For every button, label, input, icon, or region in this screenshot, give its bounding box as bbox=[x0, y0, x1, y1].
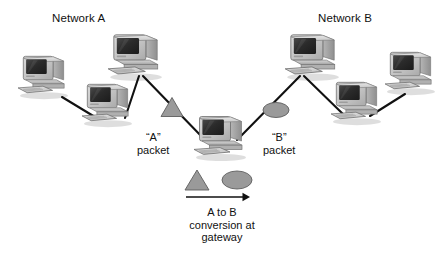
b-packet-label: “B” packet bbox=[263, 131, 295, 156]
b-packet-label-line1: “B” bbox=[263, 131, 295, 144]
computer-icon-gw bbox=[194, 117, 246, 162]
a-packet-label-line2: packet bbox=[137, 144, 169, 157]
computer-icon-b1 bbox=[285, 35, 339, 81]
packet-markers bbox=[161, 98, 289, 118]
conversion-caption-line3: gateway bbox=[142, 231, 302, 244]
a-packet-marker bbox=[161, 98, 183, 117]
b-packet-label-line2: packet bbox=[263, 144, 295, 157]
a-packet-label: “A” packet bbox=[137, 131, 169, 156]
legend-ellipse-icon bbox=[222, 171, 252, 189]
conversion-legend bbox=[185, 170, 252, 201]
computer-icon-a2 bbox=[82, 84, 132, 127]
conversion-caption-line1: A to B bbox=[142, 206, 302, 219]
conversion-caption-line2: conversion at bbox=[142, 219, 302, 232]
a-packet-label-line1: “A” bbox=[137, 131, 169, 144]
computer-icon-b2 bbox=[331, 82, 381, 125]
network-hosts bbox=[18, 35, 435, 161]
diagram-canvas: Network A Network B “A” packet “B” packe… bbox=[0, 0, 445, 265]
network-b-title: Network B bbox=[318, 12, 372, 24]
computer-icon-a1 bbox=[18, 56, 68, 99]
computer-icon-b3 bbox=[385, 52, 435, 95]
network-a-title: Network A bbox=[52, 12, 105, 24]
computer-icon-a3 bbox=[108, 35, 162, 81]
conversion-caption: A to B conversion at gateway bbox=[142, 206, 302, 244]
legend-triangle-icon bbox=[185, 170, 209, 190]
b-packet-marker bbox=[263, 103, 289, 118]
conversion-arrow-head-icon bbox=[243, 193, 251, 201]
